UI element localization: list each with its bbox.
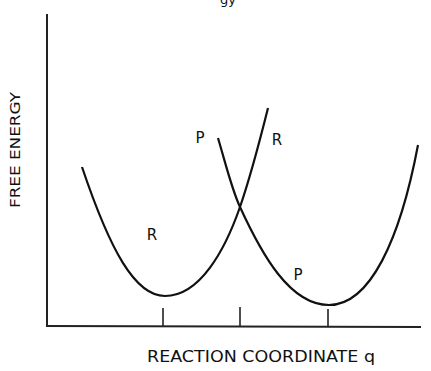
y-axis-label: FREE ENERGY <box>7 91 23 208</box>
free-energy-diagram: gy P R R P REACTION COORDINATE q FREE EN… <box>0 0 431 371</box>
x-axis-label: REACTION COORDINATE q <box>147 348 375 366</box>
label-r-lower: R <box>147 226 157 244</box>
reactant-curve <box>82 108 268 296</box>
product-curve <box>218 138 418 305</box>
x-axis <box>46 326 421 327</box>
label-p-upper: P <box>195 129 204 147</box>
title-fragment: gy <box>220 0 236 7</box>
label-p-lower: P <box>293 266 302 284</box>
label-r-upper: R <box>272 131 282 149</box>
